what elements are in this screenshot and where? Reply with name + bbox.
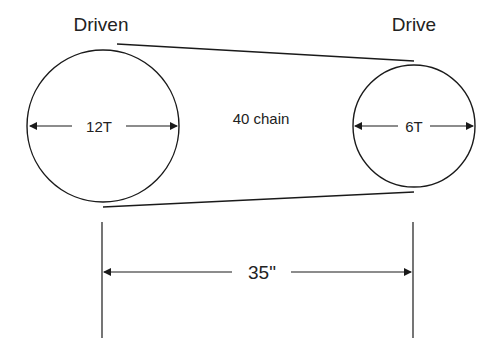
drive-teeth-label: 6T — [405, 118, 423, 135]
drive-title: Drive — [392, 14, 436, 35]
diagram-canvas: Driven Drive 12T 6T 40 chain 35" — [0, 0, 497, 353]
chain-label: 40 chain — [233, 110, 290, 127]
driven-title: Driven — [74, 14, 129, 35]
center-distance-label: 35" — [248, 262, 276, 283]
chain-top-line — [117, 44, 414, 61]
chain-bottom-line — [103, 192, 414, 207]
driven-teeth-label: 12T — [86, 118, 112, 135]
sprocket-chain-diagram: Driven Drive 12T 6T 40 chain 35" — [0, 0, 497, 353]
